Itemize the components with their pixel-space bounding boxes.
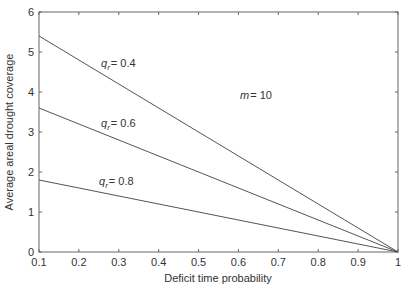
data-lines: [39, 36, 398, 252]
x-tick-label: 1: [395, 256, 401, 268]
line-chart: 0.10.20.30.40.50.60.70.80.910123456 Defi…: [0, 0, 408, 291]
x-tick-label: 0.4: [151, 256, 166, 268]
x-axis-label: Deficit time probability: [164, 272, 272, 284]
annotation-qr-0.8: qr= 0.8: [99, 175, 134, 190]
x-tick-label: 0.2: [71, 256, 86, 268]
series-line: [39, 108, 398, 252]
x-tick-label: 0.7: [271, 256, 286, 268]
axis-ticks: 0.10.20.30.40.50.60.70.80.910123456: [28, 6, 401, 268]
x-tick-label: 0.3: [111, 256, 126, 268]
series-line: [39, 180, 398, 252]
series-line: [39, 36, 398, 252]
x-tick-label: 0.5: [191, 256, 206, 268]
y-tick-label: 6: [28, 6, 34, 18]
y-tick-label: 2: [28, 166, 34, 178]
y-tick-label: 1: [28, 206, 34, 218]
annotation-qr-0.4: qr= 0.4: [101, 57, 136, 72]
annotation-qr-0.6: qr= 0.6: [101, 117, 136, 132]
y-tick-label: 0: [28, 246, 34, 258]
y-axis-label: Average areal drought coverage: [3, 54, 15, 211]
y-tick-label: 3: [28, 126, 34, 138]
y-tick-label: 5: [28, 46, 34, 58]
x-tick-label: 0.8: [311, 256, 326, 268]
x-tick-label: 0.9: [350, 256, 365, 268]
annotation-m-10: m= 10: [240, 89, 272, 101]
y-tick-label: 4: [28, 86, 34, 98]
x-tick-label: 0.6: [231, 256, 246, 268]
